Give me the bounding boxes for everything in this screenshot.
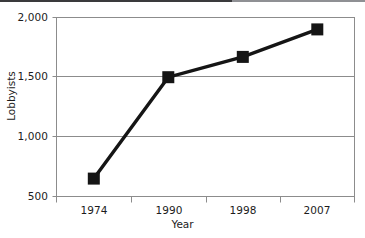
- data-point-1998[interactable]: [237, 51, 249, 63]
- y-axis-title: Lobbyists: [5, 61, 17, 131]
- y-tick-label-2000: 2,000: [4, 11, 48, 23]
- x-tick-label-1974: 1974: [64, 204, 124, 216]
- x-tick-label-1998: 1998: [213, 204, 273, 216]
- x-tick-label-1990: 1990: [139, 204, 199, 216]
- y-tick-label-1000: 1,000: [4, 130, 48, 142]
- chart-figure: 2,000 1,500 1,000 500 1974 1990 1998 200…: [0, 0, 365, 238]
- data-point-1974[interactable]: [88, 173, 100, 185]
- line-chart-plot: [0, 0, 365, 238]
- x-tick-label-2007: 2007: [287, 204, 347, 216]
- x-axis-title: Year: [0, 218, 365, 230]
- data-point-2007[interactable]: [311, 23, 323, 35]
- y-tick-label-500: 500: [4, 190, 48, 202]
- data-point-1990[interactable]: [162, 71, 174, 83]
